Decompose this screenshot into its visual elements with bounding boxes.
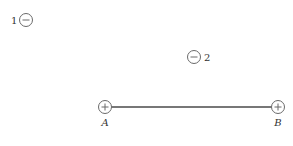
charge-b-label: B	[273, 117, 281, 128]
charge-b: B	[272, 101, 285, 129]
charge-2: 2	[188, 51, 211, 64]
charge-1-label: 1	[11, 15, 17, 26]
charge-diagram: 1 2 A B	[0, 0, 293, 146]
charge-2-label: 2	[204, 52, 210, 63]
charge-a-label: A	[100, 117, 108, 128]
charge-1: 1	[11, 14, 33, 27]
charge-a: A	[99, 101, 112, 129]
